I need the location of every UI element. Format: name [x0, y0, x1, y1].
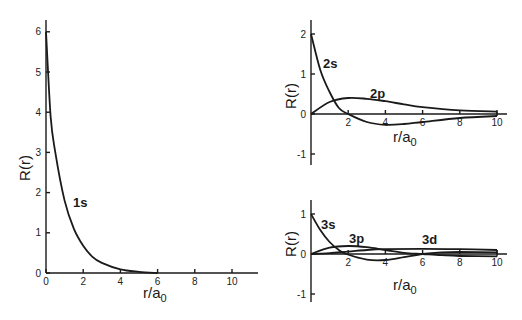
curve-label-1s: 1s — [73, 195, 87, 210]
y-ticks: -1012 — [297, 29, 315, 160]
panel-n3: -101 246810 R(r) r/a0 3s 3p 3d — [282, 200, 507, 302]
y-tick-label: 2 — [300, 29, 306, 40]
y-tick-label: 0 — [300, 109, 306, 120]
x-tick-label: 10 — [491, 257, 503, 268]
x-tick-label: 8 — [457, 257, 463, 268]
x-tick-label: 6 — [420, 257, 426, 268]
y-tick-label: 3 — [35, 147, 41, 158]
x-tick-label: 8 — [192, 276, 198, 287]
y-tick-label: 1 — [300, 209, 306, 220]
panel-n2: -1012 246810 R(r) r/a0 2s 2p — [282, 20, 507, 165]
y-axis-label: R(r) — [282, 231, 299, 257]
y-tick-label: 0 — [300, 249, 306, 260]
curve-label-2p: 2p — [370, 86, 385, 101]
y-tick-label: 1 — [35, 227, 41, 238]
x-tick-label: 10 — [491, 117, 503, 128]
curve-1s — [46, 32, 158, 273]
x-tick-label: 10 — [226, 276, 238, 287]
x-tick-label: 4 — [383, 117, 389, 128]
x-axis-label: r/a0 — [143, 284, 167, 304]
y-tick-label: 1 — [300, 69, 306, 80]
panel-1s: 0123456 0246810 R(r) r/a0 1s — [16, 20, 258, 304]
y-tick-label: -1 — [297, 289, 306, 300]
curve-label-3d: 3d — [422, 232, 437, 247]
y-tick-label: 2 — [35, 187, 41, 198]
curve-2p — [311, 98, 497, 114]
radial-wavefunction-figure: 0123456 0246810 R(r) r/a0 1s -1012 24681… — [0, 0, 522, 320]
y-tick-label: 5 — [35, 67, 41, 78]
y-tick-label: 6 — [35, 26, 41, 37]
x-tick-label: 4 — [383, 257, 389, 268]
curve-label-2s: 2s — [323, 56, 337, 71]
x-axis-label: r/a0 — [393, 128, 417, 148]
x-tick-label: 2 — [345, 117, 351, 128]
x-tick-label: 2 — [345, 257, 351, 268]
y-tick-label: 0 — [35, 268, 41, 279]
y-axis-label: R(r) — [282, 83, 299, 109]
y-axis-label: R(r) — [16, 155, 33, 181]
x-tick-label: 4 — [118, 276, 124, 287]
y-tick-label: -1 — [297, 149, 306, 160]
x-axis-label: r/a0 — [393, 276, 417, 296]
curves — [311, 34, 497, 125]
x-tick-label: 2 — [80, 276, 86, 287]
y-tick-label: 4 — [35, 107, 41, 118]
curve-label-3p: 3p — [349, 231, 364, 246]
curve-label-3s: 3s — [321, 217, 335, 232]
x-ticks: 246810 — [345, 110, 503, 128]
x-tick-label: 0 — [43, 276, 49, 287]
